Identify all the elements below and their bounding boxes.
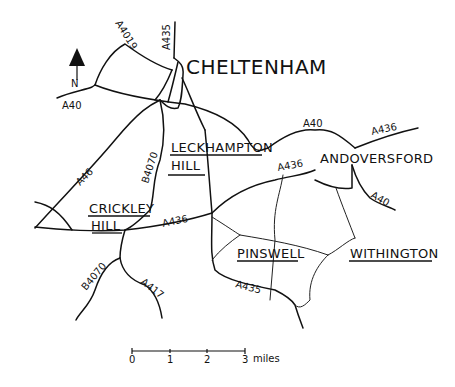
road-label-a436-west: A436: [161, 213, 189, 229]
road-label-a417: A417: [139, 276, 166, 301]
svg-text:HILL: HILL: [171, 158, 201, 173]
svg-text:PINSWELL: PINSWELL: [237, 246, 305, 261]
scale-tick-2: 2: [204, 354, 210, 365]
road-label-a40-east: A40: [303, 118, 323, 129]
place-label-withington: WITHINGTON: [349, 246, 438, 261]
road-label-a436-middle: A436: [276, 158, 303, 173]
map-canvas: N: [0, 0, 455, 387]
road-label-a40-southeast: A40: [369, 189, 391, 208]
town-label-cheltenham: CHELTENHAM: [186, 55, 327, 79]
scale-unit: miles: [253, 353, 280, 364]
road-label-a435-north: A435: [161, 24, 172, 50]
scale-bar: 0 1 2 3 miles: [129, 348, 280, 365]
scale-tick-1: 1: [167, 354, 173, 365]
svg-text:CRICKLEY: CRICKLEY: [89, 201, 154, 216]
north-label: N: [71, 78, 78, 89]
place-label-leckhampton-hill: LECKHAMPTON HILL: [168, 140, 273, 175]
road-label-a40-west: A40: [62, 100, 82, 111]
place-label-pinswell: PINSWELL: [237, 246, 305, 261]
road-label-a46: A46: [74, 166, 96, 188]
road-label-a435-south: A435: [234, 278, 262, 295]
place-label-andoversford: ANDOVERSFORD: [320, 151, 433, 166]
scale-tick-3: 3: [242, 354, 248, 365]
road-label-a4019: A4019: [113, 18, 139, 51]
north-arrow-icon: N: [69, 48, 85, 89]
svg-text:HILL: HILL: [91, 218, 121, 233]
road-label-b4070-south: B4070: [79, 260, 108, 292]
svg-text:WITHINGTON: WITHINGTON: [350, 246, 438, 261]
scale-tick-0: 0: [129, 354, 135, 365]
svg-text:LECKHAMPTON: LECKHAMPTON: [171, 140, 273, 155]
